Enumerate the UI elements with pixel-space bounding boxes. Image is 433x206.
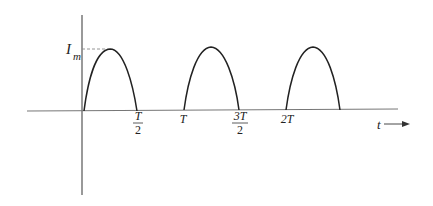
tick-label-T-half-numerator: T xyxy=(135,109,143,123)
peak-label-I: I xyxy=(65,41,72,57)
x-axis-label-t: t xyxy=(377,117,381,132)
half-sine-arch-2 xyxy=(184,47,239,110)
half-sine-arch-3 xyxy=(286,47,340,110)
tick-label-T: T xyxy=(180,112,188,126)
tick-label-2T: 2T xyxy=(281,112,295,126)
tick-label-3T-half-numerator: 3T xyxy=(233,109,248,123)
time-direction-arrow-icon xyxy=(402,121,410,127)
peak-label-subscript-m: m xyxy=(73,50,81,62)
half-sine-arch-1 xyxy=(84,49,137,111)
tick-label-3T-half-denominator: 2 xyxy=(237,123,243,137)
half-wave-rectified-waveform-diagram: I m T 2 T 3T 2 2T t xyxy=(0,0,433,206)
tick-label-T-half-denominator: 2 xyxy=(135,123,141,137)
x-axis xyxy=(27,109,398,111)
